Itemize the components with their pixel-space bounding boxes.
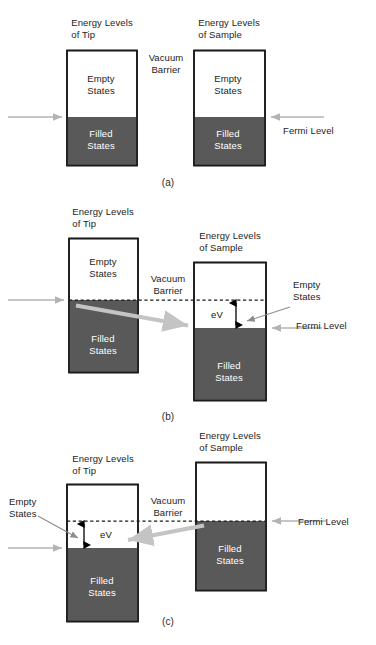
panel-a-tip-empty-label: Empty States bbox=[87, 73, 115, 97]
panel-c-bias-label: eV bbox=[100, 529, 112, 541]
panel-b-tip-title-line2: of Tip bbox=[72, 218, 134, 230]
panel-a-label: (a) bbox=[162, 177, 175, 189]
panel-a-vacuum-barrier-label: Vacuum Barrier bbox=[149, 52, 184, 76]
panel-c-tip-title-line2: of Tip bbox=[72, 465, 134, 477]
panel-c-fermi-level-label: Fermi Level bbox=[298, 516, 349, 528]
panel-b-tip-title-line1: Energy Levels bbox=[72, 206, 134, 218]
panel-b-sample-title-line2: of Sample bbox=[199, 242, 261, 254]
panel-b-label: (b) bbox=[162, 411, 175, 423]
panel-c-tip-filled-label: Filled States bbox=[88, 575, 116, 599]
panel-c-sample-title-line2: of Sample bbox=[199, 442, 261, 454]
panel-b-vacuum-barrier-label: Vacuum Barrier bbox=[151, 273, 186, 297]
panel-a-sample-title-line1: Energy Levels bbox=[198, 17, 260, 29]
panel-b-bias-label: eV bbox=[211, 309, 223, 321]
panel-b-sample-title-line1: Energy Levels bbox=[199, 230, 261, 242]
panel-a-tip-filled-label: Filled States bbox=[87, 128, 115, 152]
panel-a-sample-filled-label: Filled States bbox=[214, 128, 242, 152]
panel-b-fermi-level-label: Fermi Level bbox=[296, 320, 347, 332]
panel-a-fermi-level-label: Fermi Level bbox=[283, 125, 334, 137]
panel-b-tip-title: Energy Levels of Tip bbox=[72, 206, 134, 230]
panel-a-tip-title-line1: Energy Levels bbox=[71, 17, 133, 29]
figure-canvas: Energy Levels of Tip Energy Levels of Sa… bbox=[0, 0, 376, 645]
panel-b-sample-filled-label: Filled States bbox=[215, 360, 243, 384]
panel-a-sample-title: Energy Levels of Sample bbox=[198, 17, 260, 41]
panel-a-tip-title: Energy Levels of Tip bbox=[71, 17, 133, 41]
panel-c-graphics bbox=[8, 463, 326, 622]
panel-b-sample-empty-label: Empty States bbox=[293, 279, 321, 303]
panel-c-vacuum-barrier-label: Vacuum Barrier bbox=[151, 495, 186, 519]
panel-a-sample-title-line2: of Sample bbox=[198, 29, 260, 41]
panel-c-tip-title-line1: Energy Levels bbox=[72, 453, 134, 465]
panel-a-sample-empty-label: Empty States bbox=[214, 73, 242, 97]
panel-b-tip-filled-label: Filled States bbox=[89, 333, 117, 357]
panel-c-tip-title: Energy Levels of Tip bbox=[72, 453, 134, 477]
panel-c-tunneling-arrow bbox=[128, 526, 204, 541]
panel-c-label: (c) bbox=[162, 616, 174, 628]
panel-c-sample-filled-label: Filled States bbox=[216, 543, 244, 567]
panel-b-tip-empty-label: Empty States bbox=[89, 256, 117, 280]
panel-c-sample-title-line1: Energy Levels bbox=[199, 430, 261, 442]
panel-b-sample-title: Energy Levels of Sample bbox=[199, 230, 261, 254]
panel-a-tip-title-line2: of Tip bbox=[71, 29, 133, 41]
panel-c-tip-empty-label: Empty States bbox=[9, 496, 37, 520]
panel-c-sample-title: Energy Levels of Sample bbox=[199, 430, 261, 454]
panel-b-graphics bbox=[8, 239, 322, 401]
